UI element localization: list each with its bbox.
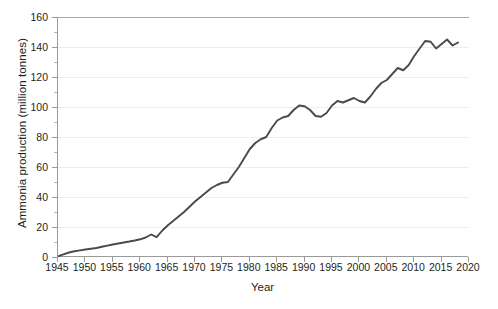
x-tick-mark-2020 [468, 257, 469, 262]
x-tick-mark-1970 [194, 257, 195, 262]
x-tick-mark-1975 [221, 257, 222, 262]
x-tick-mark-1945 [57, 257, 58, 262]
x-tick-mark-1960 [139, 257, 140, 262]
x-tick-mark-2000 [358, 257, 359, 262]
y-tick-label-40: 40 [6, 192, 48, 202]
x-tick-mark-1995 [331, 257, 332, 262]
x-tick-mark-1985 [276, 257, 277, 262]
y-tick-label-140: 140 [6, 42, 48, 52]
ammonia-production-chart: Ammonia production (million tonnes) 0204… [0, 0, 498, 309]
y-tick-label-60: 60 [6, 162, 48, 172]
x-tick-mark-2005 [386, 257, 387, 262]
x-tick-label-2020: 2020 [446, 262, 490, 273]
x-tick-mark-2015 [441, 257, 442, 262]
y-tick-label-100: 100 [6, 102, 48, 112]
data-line-svg [58, 17, 469, 257]
y-tick-label-120: 120 [6, 72, 48, 82]
x-tick-mark-2010 [413, 257, 414, 262]
x-tick-mark-1980 [249, 257, 250, 262]
y-tick-label-160: 160 [6, 12, 48, 22]
x-tick-mark-1965 [167, 257, 168, 262]
x-tick-mark-1950 [84, 257, 85, 262]
plot-area [57, 17, 468, 257]
x-axis-title: Year [57, 281, 468, 293]
gridlines [58, 18, 469, 228]
y-tick-label-0: 0 [6, 252, 48, 262]
x-tick-mark-1990 [304, 257, 305, 262]
series-line-ammonia-production [58, 40, 458, 257]
y-tick-label-80: 80 [6, 132, 48, 142]
x-tick-mark-1955 [112, 257, 113, 262]
y-tick-label-20: 20 [6, 222, 48, 232]
